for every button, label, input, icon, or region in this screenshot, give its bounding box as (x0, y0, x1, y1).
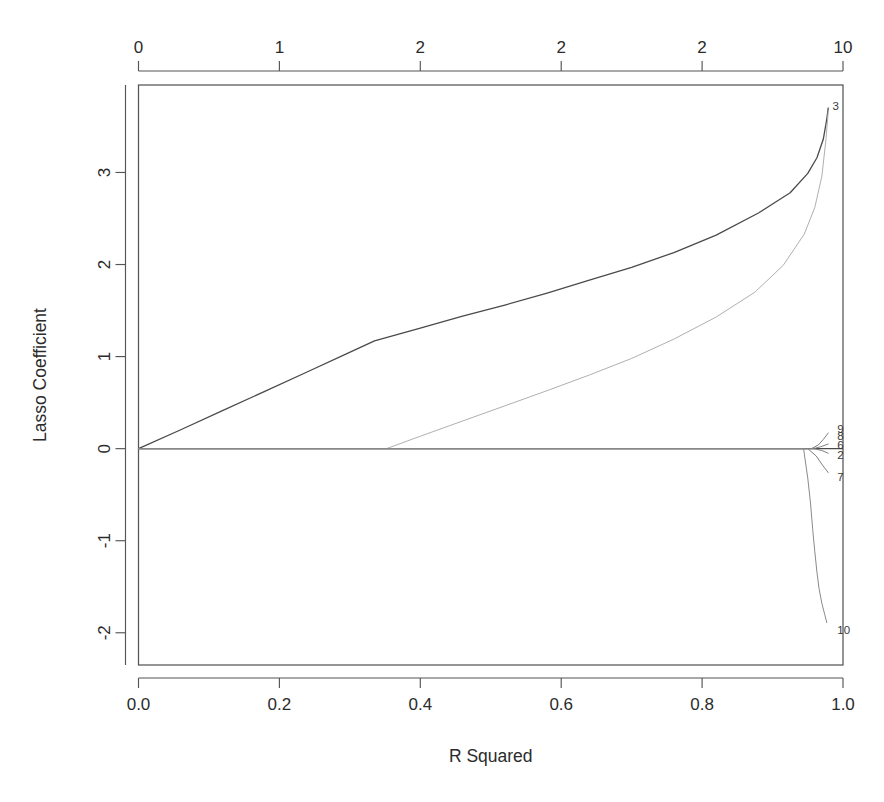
top-axis: 0122210 (134, 38, 853, 71)
y-tick-label: 2 (95, 260, 114, 269)
y-tick-label: 3 (95, 168, 114, 177)
top-tick-label: 10 (834, 38, 853, 57)
curve-end-label-2: 2 (837, 449, 843, 461)
curve-end-label-7: 7 (837, 471, 843, 483)
lasso-path-figure: 0122210 0.00.20.40.60.81.0 3210-1-2 3986… (0, 0, 884, 802)
plot-canvas: 0122210 0.00.20.40.60.81.0 3210-1-2 3986… (0, 0, 884, 802)
curve-end-label-10: 10 (837, 624, 850, 636)
y-axis-title: Lasso Coefficient (30, 308, 50, 442)
coefficient-path-8 (139, 433, 829, 449)
y-tick-label: 0 (95, 444, 114, 453)
top-tick-label: 1 (275, 38, 284, 57)
curve-end-label-3: 3 (832, 100, 838, 112)
x-tick-label: 0.0 (127, 695, 151, 714)
top-tick-label: 0 (134, 38, 143, 57)
coefficient-path-3 (139, 108, 829, 449)
y-tick-label: -1 (95, 533, 114, 548)
coefficient-path-9 (386, 112, 828, 449)
y-tick-label: -2 (95, 625, 114, 640)
x-tick-label: 0.6 (549, 695, 573, 714)
x-tick-label: 0.8 (690, 695, 714, 714)
x-tick-label: 0.4 (408, 695, 432, 714)
left-axis: 3210-1-2 (95, 85, 126, 665)
plot-frame (139, 85, 844, 665)
top-tick-label: 2 (556, 38, 565, 57)
coefficient-path-2 (139, 449, 829, 454)
coefficient-path-7 (139, 449, 829, 473)
x-axis-title: R Squared (449, 746, 533, 766)
plot-border (139, 85, 844, 665)
x-tick-label: 1.0 (831, 695, 855, 714)
top-tick-label: 2 (416, 38, 425, 57)
x-tick-label: 0.2 (268, 695, 292, 714)
y-tick-label: 1 (95, 352, 114, 361)
top-tick-label: 2 (697, 38, 706, 57)
curve-end-labels: 39862710 (832, 100, 850, 636)
coefficient-path-10 (139, 449, 827, 623)
bottom-axis: 0.00.20.40.60.81.0 (127, 678, 855, 714)
coefficient-path-6 (139, 444, 829, 449)
coefficient-path-curves (139, 108, 829, 623)
